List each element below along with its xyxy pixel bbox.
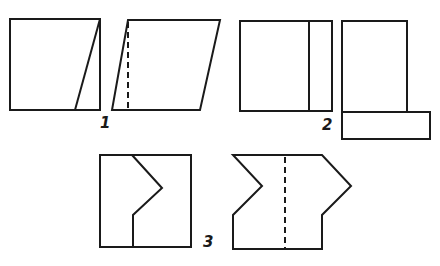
figure-3-result [233,155,351,249]
square-outline [240,21,332,111]
slanted-cut-line [75,19,100,110]
zigzag-cut-line [132,155,162,247]
figure-1-label: 1 [100,114,110,132]
figure-3-label: 3 [203,233,213,251]
figure-2-original [240,21,332,111]
figure-3-original [100,155,191,247]
figure-1-original [10,19,100,110]
tall-rectangle-outline [342,21,407,112]
bottom-strip-outline [342,112,430,139]
dissection-diagram: 1 2 3 [0,0,440,266]
notched-shape-outline [233,155,351,249]
figure-2-result [342,21,430,139]
figure-2-label: 2 [322,116,332,134]
figure-1-result [112,20,220,110]
